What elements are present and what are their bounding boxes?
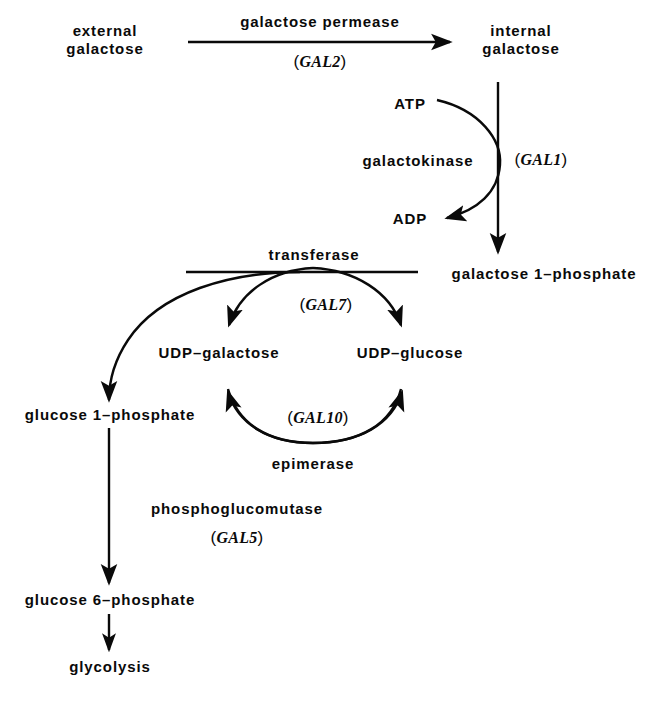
label-glycolysis: glycolysis bbox=[69, 658, 151, 675]
label-adp: ADP bbox=[393, 210, 427, 227]
internal-galactose-line-1: internal bbox=[482, 22, 559, 40]
external-galactose-line-2: galactose bbox=[66, 40, 143, 58]
gal5-text: GAL5 bbox=[216, 529, 257, 546]
gal7-text: GAL7 bbox=[305, 296, 346, 313]
label-enzyme-permease: galactose permease bbox=[240, 13, 400, 30]
pathway-diagram: external galactose internal galactose AT… bbox=[0, 0, 667, 702]
label-udp-glucose: UDP–glucose bbox=[357, 344, 464, 361]
label-enzyme-phosphoglucomutase: phosphoglucomutase bbox=[151, 500, 323, 517]
gal1-text: GAL1 bbox=[520, 151, 561, 168]
gal1-close-paren: ) bbox=[562, 150, 568, 169]
label-external-galactose: external galactose bbox=[66, 22, 143, 58]
external-galactose-line-1: external bbox=[66, 22, 143, 40]
gal5-close-paren: ) bbox=[258, 528, 264, 547]
label-internal-galactose: internal galactose bbox=[482, 22, 559, 58]
label-enzyme-transferase: transferase bbox=[269, 246, 360, 263]
label-glucose-6-phosphate: glucose 6–phosphate bbox=[25, 591, 195, 608]
label-enzyme-galactokinase: galactokinase bbox=[363, 152, 474, 169]
label-gene-gal5: (GAL5) bbox=[210, 528, 263, 548]
label-gene-gal2: (GAL2) bbox=[293, 52, 346, 72]
label-gene-gal10: (GAL10) bbox=[287, 408, 348, 428]
label-atp: ATP bbox=[394, 95, 426, 112]
label-glucose-1-phosphate: glucose 1–phosphate bbox=[25, 406, 195, 423]
label-udp-galactose: UDP–galactose bbox=[159, 344, 280, 361]
internal-galactose-line-2: galactose bbox=[482, 40, 559, 58]
gal2-text: GAL2 bbox=[299, 53, 340, 70]
label-enzyme-epimerase: epimerase bbox=[272, 455, 354, 472]
label-gene-gal1: (GAL1) bbox=[514, 150, 567, 170]
gal10-text: GAL10 bbox=[293, 409, 343, 426]
arc-transferase-to-glucose-1-phosphate bbox=[109, 272, 300, 400]
label-gene-gal7: (GAL7) bbox=[299, 295, 352, 315]
gal10-close-paren: ) bbox=[343, 408, 349, 427]
gal7-close-paren: ) bbox=[347, 295, 353, 314]
label-galactose-1-phosphate: galactose 1–phosphate bbox=[452, 265, 637, 282]
gal2-close-paren: ) bbox=[341, 52, 347, 71]
